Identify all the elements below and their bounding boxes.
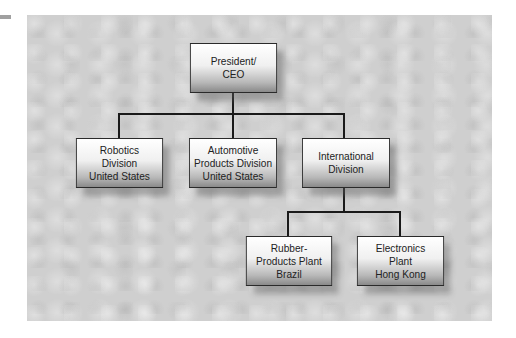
node-label-line: Plant (375, 255, 426, 268)
node-label-line: Rubber- (256, 242, 322, 255)
node-electronics-plant: Electronics Plant Hong Kong (357, 236, 444, 286)
node-robotics-division: Robotics Division United States (76, 138, 163, 188)
node-international-division: International Division (302, 138, 390, 188)
connector-international-down (343, 187, 345, 213)
node-label-line: United States (89, 170, 150, 183)
connector-automotive (232, 113, 234, 138)
node-label-line: Products Plant (256, 255, 322, 268)
node-label-line: International (318, 150, 374, 163)
page-tab-mark (0, 15, 11, 19)
node-label-line: Division (318, 163, 374, 176)
node-label-line: Division (89, 157, 150, 170)
node-rubber-products-plant: Rubber- Products Plant Brazil (246, 236, 332, 286)
node-label-line: CEO (211, 68, 257, 81)
node-label-line: Automotive (194, 144, 272, 157)
node-label-line: Brazil (256, 268, 322, 281)
node-label-line: United States (194, 170, 272, 183)
connector-electronics (399, 211, 401, 236)
connector-robotics (118, 113, 120, 138)
connector-level2-horizontal (287, 211, 401, 213)
connector-ceo-down (232, 92, 234, 115)
node-label-line: Robotics (89, 144, 150, 157)
connector-international (343, 113, 345, 138)
node-label-line: Electronics (375, 242, 426, 255)
connector-rubber (287, 211, 289, 236)
node-label-line: Products Division (194, 157, 272, 170)
node-automotive-division: Automotive Products Division United Stat… (189, 138, 277, 188)
node-label-line: Hong Kong (375, 268, 426, 281)
node-label-line: President/ (211, 55, 257, 68)
node-president-ceo: President/ CEO (190, 43, 277, 93)
